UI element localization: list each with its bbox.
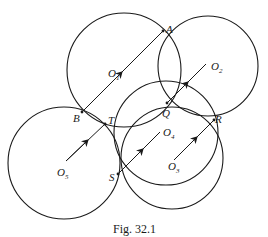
label-t: T <box>108 114 115 126</box>
label-b: B <box>73 112 80 124</box>
point-a-dot <box>162 30 165 33</box>
label-o4: O4 <box>163 126 175 141</box>
point-s-dot <box>117 173 120 176</box>
circle-o2 <box>158 16 258 116</box>
label-r: R <box>214 113 222 125</box>
arrow-q-o2 <box>167 82 188 103</box>
circle-o5 <box>8 107 120 219</box>
point-t-dot <box>104 123 107 126</box>
arrow-o3-r <box>174 137 197 160</box>
point-b-dot <box>81 111 84 114</box>
label-s: S <box>109 171 115 183</box>
circle-o3 <box>121 107 223 209</box>
arrow-o5-t <box>66 140 88 161</box>
point-q-dot <box>166 102 169 105</box>
label-a: A <box>165 23 173 35</box>
label-o5: O5 <box>57 166 69 181</box>
label-q: Q <box>162 107 170 119</box>
label-o3: O3 <box>168 160 180 175</box>
figure-32-1: A B Q T R S O1 O2 O3 O4 O5 Fig. 32.1 <box>0 0 268 237</box>
figure-caption: Fig. 32.1 <box>113 222 156 236</box>
label-o2: O2 <box>211 60 223 75</box>
